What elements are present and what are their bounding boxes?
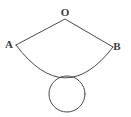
vertex-label-o: O <box>61 6 70 18</box>
geometry-diagram: O A B <box>0 0 131 117</box>
vertex-label-b: B <box>113 40 121 52</box>
geometry-figure-canvas: O A B <box>0 0 131 117</box>
vertex-label-a: A <box>5 38 13 50</box>
